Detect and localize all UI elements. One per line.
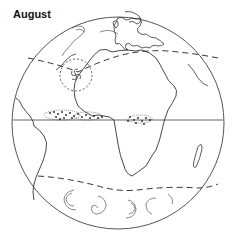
vortex-1 (64, 190, 76, 210)
north-atlantic-swirl-2 (76, 29, 84, 32)
vortex-3 (126, 200, 136, 218)
vortex-2 (92, 196, 107, 214)
hurricane-icon (72, 69, 81, 80)
africa-coastline (74, 49, 177, 176)
globe-outline (12, 17, 224, 229)
southern-ocean-vortices (64, 190, 173, 218)
itcz-cloud-band (44, 110, 152, 125)
vortex-4 (146, 194, 173, 214)
north-america-coast (56, 54, 76, 70)
globe-diagram (0, 0, 237, 238)
dashed-storm-track-north (28, 51, 218, 72)
dashed-storm-track-south (38, 176, 218, 191)
europe-coastline (114, 17, 164, 50)
arabia-coast (188, 64, 208, 86)
madagascar-outline (193, 144, 202, 167)
